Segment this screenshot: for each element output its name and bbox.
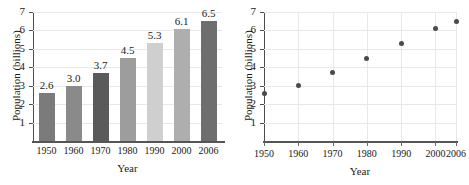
- x-tick-mark: [333, 142, 334, 146]
- scatter-chart-panel: Population (billions) 1234567 1950196019…: [234, 0, 469, 185]
- y-tick-mark: [29, 30, 33, 31]
- bar: [39, 93, 55, 141]
- bar-value-label: 3.0: [58, 73, 90, 84]
- y-tick-mark: [260, 49, 264, 50]
- scatter-chart-x-axis-line: [263, 141, 458, 143]
- y-tick-label: 3: [9, 80, 25, 91]
- data-point: [454, 19, 459, 24]
- data-point: [262, 91, 267, 96]
- y-tick-label: 6: [240, 24, 256, 35]
- gridline: [264, 123, 456, 124]
- y-tick-mark: [29, 49, 33, 50]
- y-tick-label: 4: [9, 61, 25, 72]
- y-tick-label: 1: [9, 117, 25, 128]
- bar: [93, 73, 109, 141]
- x-tick-mark: [456, 142, 457, 146]
- bar-chart-x-axis-line: [32, 141, 225, 143]
- gridline: [264, 86, 456, 87]
- y-tick-mark: [260, 67, 264, 68]
- y-tick-label: 7: [9, 6, 25, 17]
- gridline: [264, 49, 456, 50]
- gridline: [298, 12, 299, 141]
- x-tick-mark: [367, 142, 368, 146]
- bar: [201, 21, 217, 141]
- gridline: [33, 30, 222, 31]
- bar-chart-x-axis-title: Year: [33, 163, 222, 174]
- bar: [174, 29, 190, 141]
- population-figure: Population (billions) 1234567 2.63.03.74…: [0, 0, 469, 185]
- bar: [120, 58, 136, 141]
- y-tick-label: 5: [240, 43, 256, 54]
- y-tick-label: 4: [240, 61, 256, 72]
- bar-value-label: 4.5: [112, 45, 144, 56]
- y-tick-mark: [29, 67, 33, 68]
- gridline: [264, 104, 456, 105]
- y-tick-mark: [260, 12, 264, 13]
- gridline: [264, 12, 456, 13]
- gridline: [456, 12, 457, 141]
- data-point: [433, 26, 438, 31]
- y-tick-label: 7: [240, 6, 256, 17]
- bar-value-label: 3.7: [85, 60, 117, 71]
- x-tick-label: 1970: [317, 149, 349, 159]
- x-tick-label: 2006: [440, 149, 469, 159]
- gridline: [435, 12, 436, 141]
- bar-chart-panel: Population (billions) 1234567 2.63.03.74…: [0, 0, 234, 185]
- y-tick-label: 2: [240, 98, 256, 109]
- data-point: [399, 41, 404, 46]
- y-tick-mark: [260, 30, 264, 31]
- data-point: [296, 83, 301, 88]
- y-tick-label: 1: [240, 117, 256, 128]
- gridline: [264, 67, 456, 68]
- bar-value-label: 5.3: [139, 30, 171, 41]
- x-tick-label: 1980: [351, 149, 383, 159]
- gridline: [367, 12, 368, 141]
- x-tick-mark: [401, 142, 402, 146]
- y-tick-mark: [29, 12, 33, 13]
- y-tick-mark: [260, 123, 264, 124]
- x-tick-label: 1990: [385, 149, 417, 159]
- x-tick-label: 1960: [282, 149, 314, 159]
- y-tick-mark: [260, 104, 264, 105]
- y-tick-mark: [260, 86, 264, 87]
- y-tick-mark: [29, 104, 33, 105]
- y-tick-label: 5: [9, 43, 25, 54]
- data-point: [364, 56, 369, 61]
- y-tick-mark: [29, 123, 33, 124]
- x-tick-label: 1950: [248, 149, 280, 159]
- x-tick-label: 2006: [193, 146, 225, 156]
- x-tick-mark: [435, 142, 436, 146]
- y-tick-label: 3: [240, 80, 256, 91]
- x-tick-mark: [298, 142, 299, 146]
- bar-value-label: 6.5: [193, 8, 225, 19]
- bar: [147, 43, 163, 141]
- y-tick-label: 6: [9, 24, 25, 35]
- gridline: [333, 12, 334, 141]
- gridline: [401, 12, 402, 141]
- bar: [66, 86, 82, 141]
- x-tick-mark: [264, 142, 265, 146]
- gridline: [264, 30, 456, 31]
- scatter-chart-x-axis-title: Year: [264, 166, 456, 177]
- y-tick-label: 2: [9, 98, 25, 109]
